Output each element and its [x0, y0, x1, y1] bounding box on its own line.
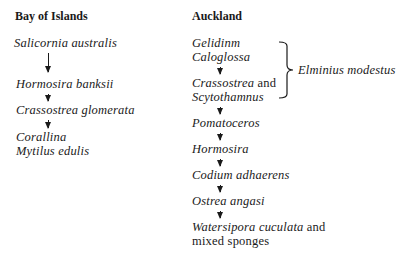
arrow-down-icon	[220, 185, 221, 192]
species-hormosira-banksii: Hormosira banksii	[16, 77, 114, 92]
arrow-down-icon	[220, 107, 221, 114]
species-crassostrea-glomerata: Crassostrea glomerata	[16, 103, 135, 118]
conjunction-and: and	[304, 220, 326, 234]
column-heading-bay-of-islands: Bay of Islands	[15, 9, 88, 24]
arrow-down-icon	[220, 67, 221, 74]
arrow-down-icon	[220, 211, 221, 218]
species-salicornia-australis: Salicornia australis	[14, 36, 117, 51]
column-heading-auckland: Auckland	[192, 9, 242, 24]
species-crassostrea: Crassostrea and	[192, 76, 276, 91]
arrow-down-icon	[48, 94, 49, 101]
arrow-down-icon	[220, 159, 221, 166]
species-corallina: Corallina	[16, 130, 66, 145]
species-mixed-sponges: mixed sponges	[192, 234, 269, 249]
conjunction-and: and	[254, 76, 276, 90]
species-scytothamnus: Scytothamnus	[192, 90, 264, 105]
species-codium-adhaerens: Codium adhaerens	[192, 168, 290, 183]
species-caloglossa: Caloglossa	[192, 50, 250, 65]
brace-label-elminius-modestus: Elminius modestus	[298, 63, 396, 78]
species-gelidinm: Gelidinm	[192, 36, 240, 51]
species-name: Crassostrea	[192, 76, 254, 90]
species-ostrea-angasi: Ostrea angasi	[192, 194, 265, 209]
species-pomatoceros: Pomatoceros	[192, 116, 260, 131]
arrow-down-icon	[220, 133, 221, 140]
arrow-down-icon	[48, 120, 49, 128]
species-mytilus-edulis: Mytilus edulis	[16, 144, 89, 159]
species-hormosira: Hormosira	[192, 142, 249, 157]
arrow-down-icon	[48, 53, 49, 72]
species-name: Watersipora cuculata	[192, 220, 304, 234]
species-watersipora-cuculata: Watersipora cuculata and	[192, 220, 326, 235]
